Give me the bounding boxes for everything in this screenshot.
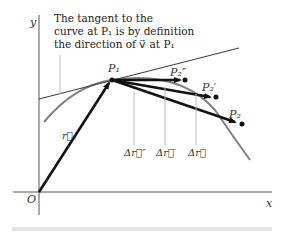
point-p1 [110,78,115,83]
p1-label: P₁ [107,62,120,75]
bottom-rule [12,227,272,231]
delta-r-label: Δr⃗ [187,147,206,158]
p2-double-prime-label: P₂″ [169,66,187,79]
caption-line-1: The tangent to the [54,12,153,24]
y-axis-label: y [29,16,37,29]
caption-line-3: the direction of v⃗ at P₁ [54,38,175,50]
point-p2 [240,122,245,127]
point-p2-prime [214,95,219,100]
r1-label: r⃗₁ [62,130,77,141]
delta-r-vector [112,80,235,122]
p2-prime-label: P₂′ [201,81,217,94]
p2-label: P₂ [228,108,241,121]
kinematics-tangent-diagram: y x O The tangent to the curve at P₁ is … [0,0,285,233]
origin-label: O [27,193,36,206]
caption-line-2: curve at P₁ is by definition [54,25,195,37]
x-axis-label: x [266,197,273,210]
delta-r-prime-label: Δr⃗′ [155,147,177,158]
delta-r-prime-vector [112,80,210,97]
delta-r-double-prime-label: Δr⃗″ [123,147,146,158]
